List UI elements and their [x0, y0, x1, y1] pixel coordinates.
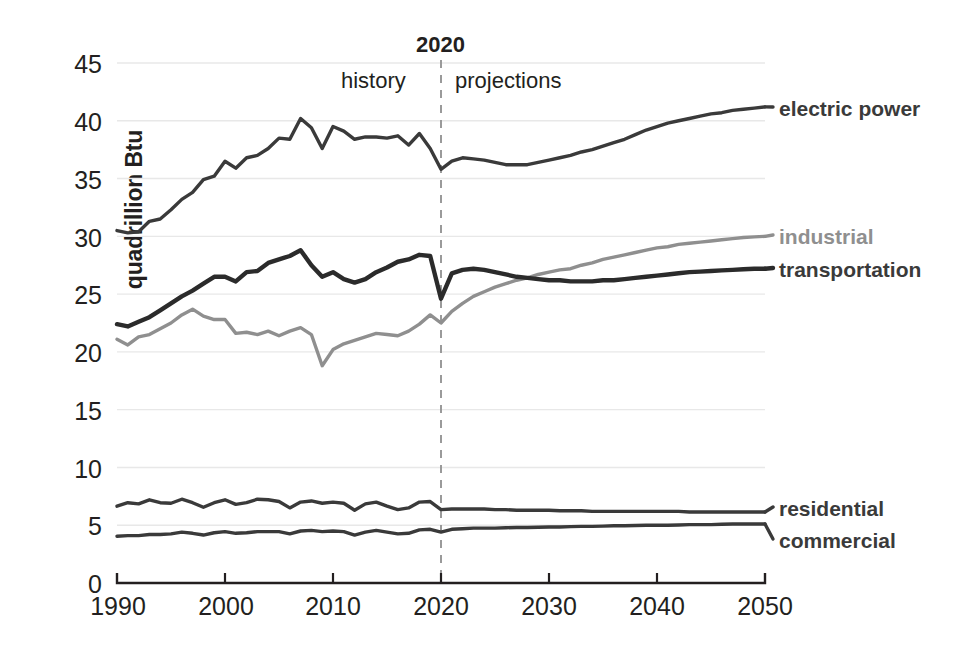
series-label-commercial: commercial: [779, 530, 896, 551]
series-label-transportation: transportation: [779, 259, 921, 280]
axis-lines: [117, 573, 765, 583]
series-leader-industrial: [765, 235, 773, 236]
series-label-industrial: industrial: [779, 226, 874, 247]
series-leader-transportation: [765, 268, 773, 269]
series-leader-commercial: [765, 524, 773, 539]
energy-consumption-by-sector-chart: quadrillion Btu 45 40 35 30 25 20 15 10 …: [0, 0, 971, 653]
series-lines: [117, 107, 773, 539]
series-label-electric-power: electric power: [779, 98, 920, 119]
series-leader-residential: [765, 507, 773, 512]
series-label-residential: residential: [779, 498, 884, 519]
